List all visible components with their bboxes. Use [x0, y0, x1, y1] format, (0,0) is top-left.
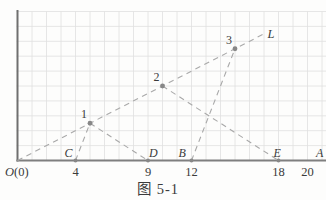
- ray-point-dot-2: [160, 84, 165, 89]
- diagram-canvas: CDBE12349121820O(0)LA: [0, 0, 326, 200]
- segment-B-3: [192, 49, 236, 161]
- segment-C-1: [76, 123, 91, 160]
- ray-point-label-2: 2: [154, 70, 160, 84]
- axis-end-label-A: A: [315, 146, 324, 160]
- axis-point-dot-C: [74, 159, 78, 163]
- axis-point-label-E: E: [273, 146, 282, 160]
- ray-point-dot-3: [233, 46, 238, 51]
- ray-point-dot-1: [88, 121, 93, 126]
- ray-end-label-L: L: [266, 27, 274, 41]
- axis-point-label-C: C: [65, 146, 74, 160]
- origin-label: O(0): [5, 165, 29, 179]
- axis-point-label-D: D: [148, 146, 158, 160]
- ray-O-L: [18, 33, 266, 160]
- tick-label-20: 20: [301, 165, 314, 179]
- axis-point-dot-B: [190, 159, 194, 163]
- figure-5-1: CDBE12349121820O(0)LA 图 5-1: [0, 0, 326, 200]
- ray-point-label-3: 3: [226, 33, 232, 47]
- tick-label-18: 18: [272, 165, 285, 179]
- ray-point-label-1: 1: [81, 107, 87, 121]
- tick-label-4: 4: [72, 165, 79, 179]
- tick-label-12: 12: [185, 165, 198, 179]
- figure-caption: 图 5-1: [137, 177, 179, 198]
- axis-point-label-B: B: [179, 146, 187, 160]
